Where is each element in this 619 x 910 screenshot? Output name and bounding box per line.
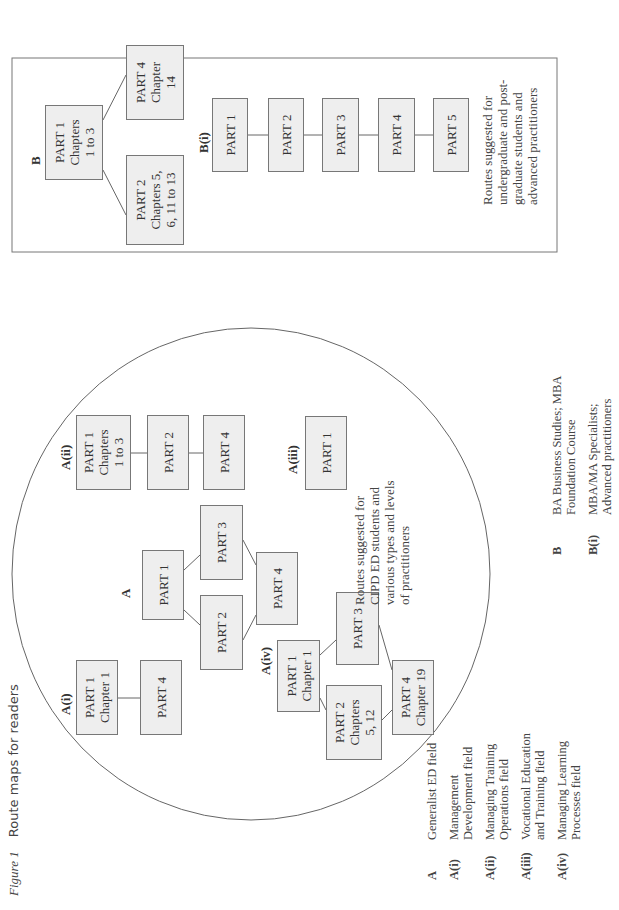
legend-key: A(iii) [519,840,547,880]
legend-text: MBA/MA Specialists; Advanced practitione… [586,399,614,515]
route-a-part1: PART 1 [142,550,184,620]
route-aii-part1: PART 1 Chapters 1 to 3 [76,415,131,490]
route-bi-part1: PART 1 [212,98,248,172]
legend-b-row: B BA Business Studies; MBA Foundation Co… [550,255,578,555]
route-bi-label: B(i) [196,132,212,153]
legend-a: A Generalist ED field A(i) Management De… [425,640,591,880]
route-aiii-label: A(iii) [285,445,301,474]
route-b-part4: PART 4 Chapter 14 [126,45,184,120]
route-aiii-part1: PART 1 [305,416,347,490]
route-a-part2: PART 2 [200,595,243,670]
legend-key: B(i) [586,515,614,555]
legend-text: BA Business Studies; MBA Foundation Cour… [550,376,578,515]
legend-text: Vocational Education and Training field [519,733,547,840]
route-bi-part4: PART 4 [378,98,415,172]
route-aii-label: A(ii) [58,445,74,470]
group-a-note: Routes suggested for CIPD ED students an… [352,480,412,605]
route-aiv-part2: PART 2 Chapters 5, 12 [326,685,382,760]
legend-a-row: A(iii) Vocational Education and Training… [519,640,547,880]
legend-a-row: A(iv) Managing Learning Processes field [555,640,583,880]
group-a-circle [12,328,490,820]
route-ai-label: A(i) [58,693,74,715]
route-bi-part5: PART 5 [433,98,469,172]
route-aiv-part1: PART 1 Chapter 1 [277,640,320,712]
legend-text: Managing Learning Processes field [555,741,583,840]
legend-a-row: A(ii) Managing Training Operations field [483,640,511,880]
group-b-note: Routes suggested for undergraduate and p… [480,80,540,205]
legend-key: A [425,840,439,880]
legend-key: A(i) [447,840,475,880]
route-aii-part2: PART 2 [147,415,189,490]
legend-text: Management Development field [447,747,475,840]
route-a-label: A [118,589,134,598]
legend-a-row: A(i) Management Development field [447,640,475,880]
route-bi-part2: PART 2 [268,98,304,172]
legend-key: A(iv) [555,840,583,880]
route-ai-part1: PART 1 Chapter 1 [76,660,118,735]
legend-text: Managing Training Operations field [483,744,511,840]
legend-text: Generalist ED field [425,743,439,840]
legend-a-row: A Generalist ED field [425,640,439,880]
legend-key: B [550,515,578,555]
route-b-part2: PART 2 Chapters 5, 6, 11 to 13 [126,155,184,245]
route-a-part4: PART 4 [256,552,298,625]
route-aiv-label: A(iv) [258,647,274,675]
route-a-part3: PART 3 [200,505,243,580]
route-ai-part4: PART 4 [140,660,182,735]
route-b-part1: PART 1 Chapters 1 to 3 [45,105,103,180]
legend-key: A(ii) [483,840,511,880]
legend-b: B BA Business Studies; MBA Foundation Co… [550,255,619,555]
route-bi-part3: PART 3 [322,98,359,172]
route-b-label: B [28,156,44,165]
legend-b-row: B(i) MBA/MA Specialists; Advanced practi… [586,255,614,555]
route-aii-part4: PART 4 [203,415,245,490]
